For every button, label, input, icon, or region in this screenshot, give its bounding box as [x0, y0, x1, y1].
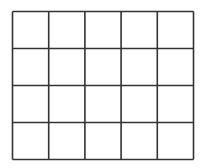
grid-cell-r4-c4: [121, 123, 157, 160]
grid-cell-r3-c5: [157, 86, 193, 123]
grid-cell-r2-c4: [121, 49, 157, 86]
grid-cell-r2-c2: [49, 49, 85, 86]
grid-cell-r3-c3: [85, 86, 121, 123]
grid-cell-r1-c5: [157, 12, 193, 49]
grid-cell-r1-c2: [49, 12, 85, 49]
grid-cell-r4-c1: [13, 123, 49, 160]
grid-cell-r4-c2: [49, 123, 85, 160]
grid-cell-r1-c3: [85, 12, 121, 49]
grid-cell-r2-c1: [13, 49, 49, 86]
grid-cell-r4-c5: [157, 123, 193, 160]
grid-cell-r2-c3: [85, 49, 121, 86]
grid-diagram: [0, 0, 203, 168]
grid-cell-r4-c3: [85, 123, 121, 160]
grid-cell-r2-c5: [157, 49, 193, 86]
grid-cell-r3-c4: [121, 86, 157, 123]
grid-cell-r1-c4: [121, 12, 157, 49]
grid-cell-r3-c2: [49, 86, 85, 123]
grid-cell-r1-c1: [13, 12, 49, 49]
grid-cell-r3-c1: [13, 86, 49, 123]
